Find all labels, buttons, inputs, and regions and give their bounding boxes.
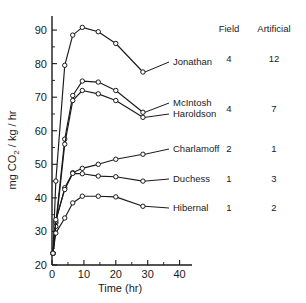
series-hibernal	[51, 194, 145, 255]
data-point	[80, 25, 84, 29]
data-point	[63, 187, 67, 191]
y-axis-title: mg CO2 / kg / hr	[6, 110, 21, 189]
series-label-duchess: Duchess	[173, 173, 210, 184]
y-tick-label-20: 20	[35, 259, 47, 271]
data-point	[96, 92, 100, 96]
data-point	[80, 172, 84, 176]
legend-field-value: 2	[226, 143, 231, 154]
data-point	[71, 93, 75, 97]
y-tick-label-40: 40	[35, 192, 47, 204]
y-axis-tick-labels: 2030405060708090	[35, 24, 47, 271]
data-point	[54, 231, 58, 235]
data-point	[141, 204, 145, 208]
data-point	[96, 174, 100, 178]
leader-hibernal	[145, 206, 169, 208]
data-point	[54, 179, 58, 183]
legend-artificial-value: 2	[271, 202, 276, 213]
x-axis-tick-labels: 010203040	[49, 268, 186, 280]
y-axis-title-suffix: / kg / hr	[6, 110, 18, 150]
y-tick-label-90: 90	[35, 24, 47, 36]
y-tick-label-80: 80	[35, 58, 47, 70]
series-label-mcintosh: McIntosh	[173, 97, 212, 108]
series-line-charlamoff	[53, 154, 143, 253]
data-point	[80, 88, 84, 92]
legend-artificial-value: 12	[269, 53, 280, 64]
data-point	[63, 216, 67, 220]
series-labels: JonathanMcIntoshHaroldsonCharlamoffDuche…	[173, 56, 220, 213]
data-point	[54, 217, 58, 221]
y-tick-label-50: 50	[35, 158, 47, 170]
data-point	[141, 110, 145, 114]
data-point	[96, 80, 100, 84]
series-duchess	[51, 171, 145, 255]
legend-table: FieldArtificial41247211312	[219, 23, 291, 213]
data-point	[96, 194, 100, 198]
data-point	[114, 88, 118, 92]
series-line-haroldson	[53, 90, 143, 253]
y-tick-label-70: 70	[35, 91, 47, 103]
data-point	[71, 171, 75, 175]
legend-artificial-value: 7	[271, 103, 276, 114]
data-point	[114, 41, 118, 45]
data-point	[114, 175, 118, 179]
data-point	[114, 98, 118, 102]
leader-mcintosh	[145, 103, 169, 112]
data-point	[141, 115, 145, 119]
series-label-jonathan: Jonathan	[173, 56, 212, 67]
x-tick-label-30: 30	[142, 268, 154, 280]
data-point	[141, 179, 145, 183]
data-point	[71, 33, 75, 37]
leader-jonathan	[145, 62, 169, 72]
x-tick-label-0: 0	[49, 268, 55, 280]
series-charlamoff	[51, 152, 145, 255]
data-point	[96, 162, 100, 166]
legend-field-value: 4	[226, 53, 231, 64]
x-tick-label-20: 20	[110, 268, 122, 280]
legend-header-artificial: Artificial	[257, 23, 290, 34]
data-point	[71, 98, 75, 102]
data-point	[63, 142, 67, 146]
data-point	[80, 166, 84, 170]
data-point	[114, 195, 118, 199]
data-point	[71, 201, 75, 205]
legend-artificial-value: 3	[271, 173, 276, 184]
series-label-hibernal: Hibernal	[173, 202, 208, 213]
chart-figure: 2030405060708090 010203040 JonathanMcInt…	[0, 0, 306, 303]
series-leader-lines	[145, 62, 169, 208]
series-line-mcintosh	[53, 81, 143, 253]
y-tick-label-60: 60	[35, 125, 47, 137]
x-axis-title: Time (hr)	[98, 282, 142, 294]
svg-text:mg CO2 / kg / hr: mg CO2 / kg / hr	[6, 110, 21, 189]
x-tick-label-40: 40	[173, 268, 185, 280]
data-point	[80, 79, 84, 83]
data-point	[51, 251, 55, 255]
series-label-charlamoff: Charlamoff	[173, 143, 220, 154]
legend-field-value: 1	[226, 202, 231, 213]
data-point	[141, 70, 145, 74]
data-point	[80, 194, 84, 198]
leader-haroldson	[145, 114, 169, 117]
series-haroldson	[51, 88, 145, 255]
chart-canvas: 2030405060708090 010203040 JonathanMcInt…	[0, 0, 306, 303]
data-point	[141, 152, 145, 156]
leader-charlamoff	[145, 149, 169, 154]
data-point	[63, 63, 67, 67]
legend-field-value: 1	[226, 173, 231, 184]
series-mcintosh	[51, 79, 145, 256]
leader-duchess	[145, 179, 169, 181]
data-point	[96, 30, 100, 34]
data-point	[114, 157, 118, 161]
legend-header-field: Field	[219, 23, 240, 34]
series-label-haroldson: Haroldson	[173, 108, 216, 119]
y-axis-title-prefix: mg CO	[6, 154, 18, 189]
x-tick-label-10: 10	[78, 268, 90, 280]
y-tick-label-30: 30	[35, 225, 47, 237]
legend-artificial-value: 1	[271, 143, 276, 154]
data-series-group	[51, 25, 145, 255]
series-line-hibernal	[53, 196, 143, 253]
x-axis-ticks	[52, 260, 180, 265]
series-line-duchess	[53, 173, 143, 253]
legend-field-value: 4	[226, 103, 231, 114]
